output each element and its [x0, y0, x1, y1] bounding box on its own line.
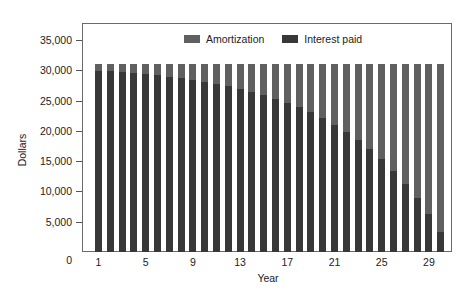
x-tick-label: 5 [143, 256, 149, 268]
x-tick-label: 29 [423, 256, 435, 268]
bar-segment-interest-paid [201, 82, 208, 252]
y-tick [76, 40, 82, 41]
bar-year-13 [237, 64, 244, 252]
x-tick-label: 21 [329, 256, 341, 268]
bar-year-18 [296, 64, 303, 252]
y-tick-label: 20,000 [40, 125, 72, 137]
y-tick-label: 5,000 [46, 216, 72, 228]
bar-segment-amortization [319, 64, 326, 118]
bar-segment-amortization [166, 64, 173, 76]
bar-segment-interest-paid [307, 112, 314, 252]
bar-segment-amortization [248, 64, 255, 91]
bar-segment-amortization [366, 64, 373, 149]
y-axis-title: Dollars [16, 134, 28, 167]
y-tick [76, 101, 82, 102]
bar-segment-interest-paid [142, 74, 149, 252]
bar-segment-interest-paid [402, 184, 409, 252]
y-tick-label: 10,000 [40, 185, 72, 197]
bar-year-12 [225, 64, 232, 252]
bar-year-28 [414, 64, 421, 252]
bar-segment-interest-paid [355, 140, 362, 252]
bar-year-20 [319, 64, 326, 252]
legend-swatch-interest-paid [282, 35, 298, 43]
bar-segment-amortization [237, 64, 244, 88]
y-tick [76, 222, 82, 223]
bar-year-21 [331, 64, 338, 252]
bar-segment-amortization [189, 64, 196, 80]
bar-segment-amortization [201, 64, 208, 81]
bar-segment-amortization [119, 64, 126, 72]
bar-segment-interest-paid [119, 72, 126, 252]
bar-year-4 [130, 64, 137, 252]
x-tick-label: 17 [281, 256, 293, 268]
bar-segment-interest-paid [189, 80, 196, 252]
bar-segment-amortization [154, 64, 161, 75]
x-axis-title: Year [257, 272, 278, 284]
bar-year-17 [284, 64, 291, 252]
bar-year-8 [178, 64, 185, 252]
bar-segment-interest-paid [378, 159, 385, 252]
bar-year-25 [378, 64, 385, 252]
bar-year-29 [425, 64, 432, 252]
bar-segment-amortization [343, 64, 350, 132]
bar-segment-interest-paid [260, 95, 267, 252]
bar-segment-interest-paid [343, 132, 350, 252]
bar-segment-interest-paid [225, 86, 232, 252]
bar-segment-amortization [213, 64, 220, 83]
bar-year-19 [307, 64, 314, 252]
y-tick [76, 161, 82, 162]
bar-segment-interest-paid [130, 73, 137, 252]
bar-segment-interest-paid [414, 198, 421, 252]
bar-segment-amortization [225, 64, 232, 86]
bar-segment-amortization [178, 64, 185, 78]
y-tick [76, 191, 82, 192]
bar-segment-amortization [260, 64, 267, 95]
bar-year-1 [95, 64, 102, 252]
bar-segment-amortization [107, 64, 114, 71]
bar-year-27 [402, 64, 409, 252]
bar-year-14 [248, 64, 255, 252]
bar-year-6 [154, 64, 161, 252]
bar-segment-amortization [414, 64, 421, 198]
bar-segment-amortization [437, 64, 444, 232]
bar-segment-amortization [331, 64, 338, 124]
bar-segment-interest-paid [107, 71, 114, 252]
bar-segment-amortization [378, 64, 385, 159]
bar-segment-interest-paid [213, 84, 220, 252]
bar-segment-interest-paid [296, 107, 303, 252]
bar-year-5 [142, 64, 149, 252]
bar-segment-amortization [402, 64, 409, 183]
bar-year-15 [260, 64, 267, 252]
y-tick-label: 15,000 [40, 155, 72, 167]
bar-year-7 [166, 64, 173, 252]
bar-segment-interest-paid [366, 149, 373, 252]
legend-swatch-amortization [184, 35, 200, 43]
y-tick [76, 70, 82, 71]
bar-year-16 [272, 64, 279, 252]
bar-segment-interest-paid [154, 75, 161, 252]
y-tick-label: 25,000 [40, 95, 72, 107]
bar-segment-interest-paid [390, 171, 397, 252]
bar-segment-interest-paid [237, 89, 244, 252]
legend-label: Amortization [206, 33, 264, 45]
y-tick-label: 0 [66, 254, 72, 266]
legend-item-amortization: Amortization [184, 33, 264, 45]
legend-item-interest-paid: Interest paid [282, 33, 362, 45]
bar-segment-interest-paid [248, 92, 255, 252]
bar-segment-amortization [355, 64, 362, 140]
bar-segment-interest-paid [272, 99, 279, 252]
bar-segment-amortization [390, 64, 397, 171]
bar-segment-amortization [307, 64, 314, 112]
bar-segment-interest-paid [178, 78, 185, 252]
bar-segment-interest-paid [331, 125, 338, 252]
x-tick-label: 13 [234, 256, 246, 268]
bar-year-11 [213, 64, 220, 252]
legend: Amortization Interest paid [184, 33, 362, 45]
bar-year-26 [390, 64, 397, 252]
bar-segment-amortization [130, 64, 137, 73]
y-tick-label: 30,000 [40, 64, 72, 76]
bar-segment-interest-paid [319, 118, 326, 252]
bar-year-3 [119, 64, 126, 252]
y-tick-label: 35,000 [40, 34, 72, 46]
bar-year-23 [355, 64, 362, 252]
